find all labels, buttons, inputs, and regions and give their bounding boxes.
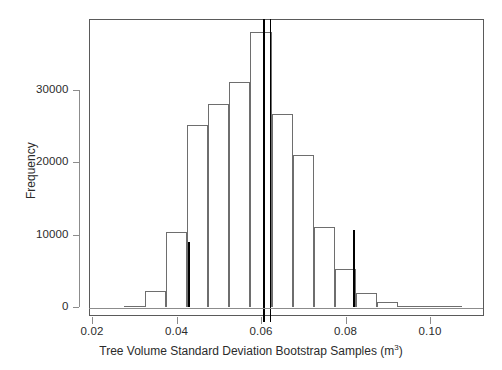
ci-lower-line [188, 242, 190, 307]
y-axis-tick [73, 307, 79, 308]
ci-upper-line [353, 230, 355, 307]
histogram-bar [272, 114, 293, 307]
observed-statistic-line [263, 19, 265, 322]
x-axis-tick-label: 0.04 [147, 325, 207, 337]
x-axis-tick-label: 0.06 [231, 325, 291, 337]
x-axis-tick [346, 317, 347, 324]
x-axis-title-text: Tree Volume Standard Deviation Bootstrap… [99, 344, 394, 358]
x-axis-tick-label: 0.08 [316, 325, 376, 337]
y-axis-tick [73, 235, 79, 236]
x-axis-tick [177, 317, 178, 324]
x-axis-tick [92, 317, 93, 324]
y-axis-tick [73, 90, 79, 91]
histogram-chart: 0.020.040.060.080.10 0100002000030000 Fr… [0, 0, 502, 370]
histogram-bar [377, 302, 398, 307]
histogram-bar [166, 232, 187, 307]
x-axis-tick-label: 0.02 [62, 325, 122, 337]
x-axis-title-tail: ) [399, 344, 403, 358]
histogram-bar [145, 291, 166, 307]
histogram-bar [208, 104, 229, 307]
y-axis-tick-label: 0 [0, 300, 69, 312]
y-axis-line [79, 90, 80, 307]
histogram-bar [293, 155, 314, 307]
x-axis-line [89, 308, 483, 309]
x-axis-title: Tree Volume Standard Deviation Bootstrap… [0, 344, 502, 358]
x-axis-tick [430, 317, 431, 324]
y-axis-tick-label: 10000 [0, 228, 69, 240]
bootstrap-mean-line [270, 19, 271, 322]
histogram-bar [250, 32, 271, 307]
y-axis-tick-label: 30000 [0, 83, 69, 95]
x-axis-tick [261, 317, 262, 324]
y-axis-tick [73, 162, 79, 163]
y-axis-title: Frequency [24, 142, 38, 199]
histogram-bar [356, 293, 377, 307]
histogram-bar [229, 82, 250, 307]
x-axis-tick-label: 0.10 [400, 325, 460, 337]
histogram-bar [314, 227, 335, 307]
